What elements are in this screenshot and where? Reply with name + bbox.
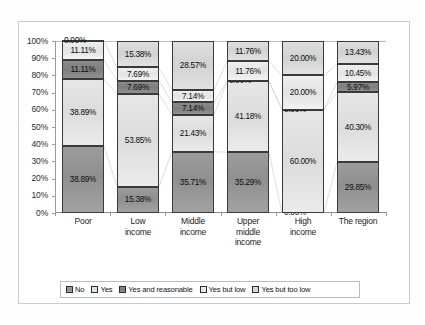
bar-segment[interactable]: 7.14% <box>172 102 214 114</box>
y-axis: 100%90%80%70%60%50%40%30%20%10%0% <box>12 41 48 213</box>
bar-segment[interactable]: 35.29% <box>227 152 269 213</box>
bar-segment-label: 60.00% <box>290 157 316 166</box>
bar-segment[interactable]: 11.76% <box>227 61 269 81</box>
bar-segment[interactable]: 29.85% <box>337 162 379 213</box>
bar-stack[interactable]: 38.89%38.89%11.11%11.11%0.00% <box>62 41 104 213</box>
x-axis-tick-label-line: income <box>163 227 223 238</box>
legend-swatch-icon <box>119 286 126 293</box>
bar-segment-label: 40.30% <box>345 123 371 132</box>
bar-segment-label: 20.00% <box>290 88 316 97</box>
x-axis-tick-label-line: Upper <box>218 216 278 227</box>
bar-segment-label: 7.14% <box>182 92 204 101</box>
y-axis-tick-label: 10% <box>14 191 48 200</box>
bar-stack[interactable]: 0.00%60.00%0.00%20.00%20.00% <box>282 41 324 213</box>
x-axis-tick-label-line: middle <box>218 227 278 238</box>
plot-area: 38.89%38.89%11.11%11.11%0.00%15.38%53.85… <box>55 41 385 213</box>
legend-item[interactable]: Yes <box>91 286 112 294</box>
bar-segment-label: 11.11% <box>70 46 95 55</box>
x-axis-tick-label: Uppermiddleincome <box>218 216 278 248</box>
y-axis-tick-label: 40% <box>14 140 48 149</box>
y-axis-tick-label: 30% <box>14 157 48 166</box>
bar-segment[interactable]: 38.89% <box>62 79 104 146</box>
bar-segment-label: 11.11% <box>70 65 95 74</box>
legend-swatch-icon <box>91 286 98 293</box>
chart-legend: NoYesYes and reasonableYes but lowYes bu… <box>60 281 360 298</box>
legend-item[interactable]: Yes but low <box>200 286 246 294</box>
x-axis-tick-label: The region <box>328 216 388 227</box>
bar-segment-label: 7.69% <box>127 70 149 79</box>
bar-segment[interactable]: 10.45% <box>337 64 379 82</box>
bar-segment-label: 35.71% <box>180 178 206 187</box>
legend-item[interactable]: Yes and reasonable <box>119 286 192 294</box>
bar-segment-label: 15.38% <box>125 195 151 204</box>
x-axis-tick-label-line: Poor <box>53 216 113 227</box>
bar-segment[interactable]: 0.00% <box>62 40 104 41</box>
bar-segment[interactable]: 7.14% <box>172 90 214 102</box>
legend-swatch-icon <box>66 286 73 293</box>
bar-stack[interactable]: 35.29%41.18%0.00%11.76%11.76% <box>227 41 269 213</box>
bar-segment[interactable]: 28.57% <box>172 41 214 90</box>
bar-segment-label: 7.14% <box>182 104 204 113</box>
x-axis: PoorLowincomeMiddleincomeUppermiddleinco… <box>55 216 386 272</box>
bar-segment[interactable]: 40.30% <box>337 92 379 161</box>
x-axis-tick-label: Lowincome <box>108 216 168 237</box>
bar-segment-label: 13.43% <box>345 48 371 57</box>
bar-segment[interactable]: 13.43% <box>337 41 379 64</box>
bar-segment-label: 5.97% <box>347 83 369 92</box>
y-axis-tick-label: 80% <box>14 71 48 80</box>
bar-segment-label: 53.85% <box>125 136 151 145</box>
legend-item[interactable]: Yes but too low <box>252 286 310 294</box>
y-axis-tick-label: 0% <box>14 209 48 218</box>
bar-segment[interactable]: 41.18% <box>227 81 269 152</box>
x-axis-tick-label: Highincome <box>273 216 333 237</box>
x-axis-tick-label-line: income <box>218 237 278 248</box>
bar-segment-label: 38.89% <box>70 108 96 117</box>
bar-segment-label: 10.45% <box>345 69 371 78</box>
bar-segment-label: 20.00% <box>290 54 316 63</box>
bar-segment[interactable]: 35.71% <box>172 152 214 213</box>
bar-segment-label: 15.38% <box>125 50 151 59</box>
legend-item-label: Yes but too low <box>261 286 310 294</box>
bar-segment-label: 11.76% <box>235 47 261 56</box>
bar-segment[interactable]: 7.69% <box>117 67 159 80</box>
bar-segment[interactable]: 20.00% <box>282 41 324 75</box>
bar-segment[interactable]: 15.38% <box>117 187 159 213</box>
bar-segment-label: 11.76% <box>235 67 261 76</box>
legend-swatch-icon <box>252 286 259 293</box>
y-axis-tick-label: 20% <box>14 174 48 183</box>
bar-segment[interactable]: 7.69% <box>117 81 159 94</box>
x-axis-tick-label-line: The region <box>328 216 388 227</box>
bar-segment[interactable]: 21.43% <box>172 115 214 152</box>
x-axis-tick-label: Poor <box>53 216 113 227</box>
legend-item-label: No <box>75 286 84 294</box>
y-axis-tick-label: 60% <box>14 105 48 114</box>
bar-segment-label: 29.85% <box>345 183 371 192</box>
bar-stack[interactable]: 29.85%40.30%5.97%10.45%13.43% <box>337 41 379 213</box>
bar-segment-label: 41.18% <box>235 112 261 121</box>
x-axis-tick-label-line: Low <box>108 216 168 227</box>
bar-segment[interactable]: 53.85% <box>117 94 159 187</box>
bar-segment[interactable]: 11.76% <box>227 41 269 61</box>
bar-stack[interactable]: 35.71%21.43%7.14%7.14%28.57% <box>172 41 214 213</box>
y-axis-tick-label: 50% <box>14 123 48 132</box>
x-axis-tick-label-line: High <box>273 216 333 227</box>
bar-segment[interactable]: 11.11% <box>62 60 104 79</box>
bar-segment-label: 21.43% <box>180 129 206 138</box>
bar-segment[interactable]: 20.00% <box>282 75 324 109</box>
bar-segment[interactable]: 38.89% <box>62 146 104 213</box>
bar-segment-label: 28.57% <box>180 61 206 70</box>
bar-segment[interactable]: 15.38% <box>117 41 159 67</box>
legend-item-label: Yes but low <box>209 286 246 294</box>
y-axis-tick-label: 100% <box>14 37 48 46</box>
legend-item[interactable]: No <box>66 286 84 294</box>
legend-swatch-icon <box>200 286 207 293</box>
bar-stack[interactable]: 15.38%53.85%7.69%7.69%15.38% <box>117 41 159 213</box>
x-axis-tick-label-line: income <box>108 227 168 238</box>
bar-segment-label: 7.69% <box>127 83 149 92</box>
x-axis-tick-label-line: Middle <box>163 216 223 227</box>
bar-segment-label: 0.00% <box>64 36 86 45</box>
bar-segment[interactable]: 60.00% <box>282 110 324 213</box>
x-axis-tick-label-line: income <box>273 227 333 238</box>
bar-segment[interactable]: 5.97% <box>337 82 379 92</box>
bar-segment-label: 38.89% <box>70 175 96 184</box>
